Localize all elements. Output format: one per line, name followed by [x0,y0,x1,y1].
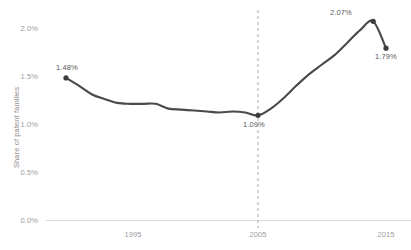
annotation-trough-2005: 1.09% [243,120,265,129]
y-tick-label-0: 0.0% [8,216,38,225]
x-tick-label-1995: 1995 [113,230,153,239]
x-tick-label-2015: 2015 [366,230,406,239]
data-point-markers [63,19,388,118]
annotation-end-2015: 1.79% [375,52,397,61]
data-point-marker [63,75,68,80]
annotation-start-1990: 1.48% [56,63,78,72]
y-tick-label-2: 2.0% [8,24,38,33]
data-point-marker [255,113,260,118]
y-tick-label-1: 1.0% [8,120,38,129]
annotation-peak: 2.07% [330,8,352,17]
data-point-marker [371,19,376,24]
y-tick-label-0-5: 0.5% [8,168,38,177]
data-point-marker [383,46,388,51]
x-tick-label-2005: 2005 [238,230,278,239]
chart-plot-area [0,0,411,250]
data-line [66,21,386,116]
line-chart: Share of patent families 2.0% 1.5% 1.0% … [0,0,411,250]
y-tick-label-1-5: 1.5% [8,72,38,81]
